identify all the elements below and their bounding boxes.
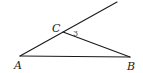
point-label-c: C [52, 22, 61, 35]
point-label-a: A [13, 59, 22, 72]
segment-ab [20, 56, 130, 57]
ray-a-through-c [20, 2, 117, 56]
geometry-diagram: A B C 3 [0, 0, 143, 73]
angle-label-3: 3 [73, 29, 78, 38]
point-label-b: B [126, 60, 135, 73]
